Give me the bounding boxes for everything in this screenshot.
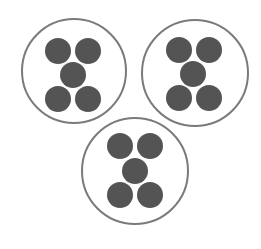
dot: [75, 86, 101, 112]
dot: [60, 62, 86, 88]
group-bottom: [82, 118, 188, 224]
group-top-right: [142, 20, 248, 126]
dot: [166, 37, 192, 63]
dot: [137, 133, 163, 159]
dot: [45, 86, 71, 112]
dot: [137, 182, 163, 208]
dot: [107, 182, 133, 208]
dot: [107, 133, 133, 159]
dot: [166, 85, 192, 111]
dot: [196, 85, 222, 111]
dot: [180, 61, 206, 87]
dot: [196, 37, 222, 63]
dot-groups-diagram: [0, 0, 261, 249]
dot: [122, 158, 148, 184]
dot: [75, 38, 101, 64]
dot: [45, 38, 71, 64]
group-top-left: [22, 19, 126, 123]
